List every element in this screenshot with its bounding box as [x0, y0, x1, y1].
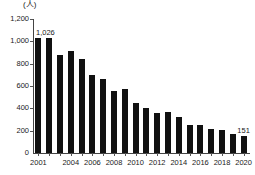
- x-axis-tick-mark: [200, 153, 201, 156]
- bar: [79, 59, 85, 153]
- x-axis-tick-mark: [60, 153, 61, 156]
- y-axis-tick-mark: [30, 131, 33, 132]
- bar: [197, 125, 203, 153]
- y-axis-tick-label: 400: [16, 104, 29, 112]
- y-axis-tick-mark: [30, 86, 33, 87]
- x-axis-tick-mark: [146, 153, 147, 156]
- bar: [143, 108, 149, 153]
- x-axis-tick-label: 2006: [84, 158, 101, 167]
- x-axis-tick-label: 2008: [106, 158, 123, 167]
- bar: [122, 89, 128, 153]
- bar: [111, 91, 117, 153]
- x-axis-tick-label: 2016: [192, 158, 209, 167]
- bar: [176, 117, 182, 153]
- y-axis-tick-mark: [30, 19, 33, 20]
- x-axis-tick-mark: [244, 153, 245, 156]
- x-axis-tick-label: 2010: [127, 158, 144, 167]
- bar: [68, 51, 74, 153]
- x-axis-tick-label: 2018: [214, 158, 231, 167]
- x-axis-tick-mark: [168, 153, 169, 156]
- y-axis-tick-mark: [30, 41, 33, 42]
- y-axis-tick-label: 600: [16, 82, 29, 90]
- x-axis-tick-mark: [103, 153, 104, 156]
- y-axis-tick-labels: 02004006008001,0001,200: [0, 0, 29, 175]
- x-axis-tick-label: 2012: [149, 158, 166, 167]
- bar: [35, 38, 41, 153]
- bar: [208, 129, 214, 153]
- x-axis-tick-mark: [71, 153, 72, 156]
- y-axis-tick-label: 1,200: [10, 15, 29, 23]
- x-axis-ticks: [33, 153, 250, 157]
- x-axis-tick-mark: [125, 153, 126, 156]
- x-axis-tick-labels: 2001200420062008201020122014201620182020: [0, 158, 255, 170]
- x-axis-tick-label: 2014: [170, 158, 187, 167]
- x-axis-tick-label: 2004: [62, 158, 79, 167]
- x-axis-tick-mark: [136, 153, 137, 156]
- x-axis-tick-mark: [38, 153, 39, 156]
- y-axis-tick-label: 0: [25, 149, 29, 157]
- x-axis-tick-mark: [82, 153, 83, 156]
- bar: [89, 75, 95, 153]
- x-axis-tick-mark: [49, 153, 50, 156]
- bar: [230, 134, 236, 153]
- y-axis-tick-mark: [30, 108, 33, 109]
- bar: [187, 125, 193, 153]
- y-axis-tick-label: 200: [16, 127, 29, 135]
- x-axis-tick-mark: [190, 153, 191, 156]
- x-axis-tick-mark: [179, 153, 180, 156]
- x-axis-tick-mark: [211, 153, 212, 156]
- bar: [46, 38, 52, 153]
- x-axis-tick-label: 2001: [30, 158, 47, 167]
- x-axis-tick-mark: [114, 153, 115, 156]
- bar: [57, 55, 63, 153]
- x-axis-tick-mark: [92, 153, 93, 156]
- bar: [133, 103, 139, 153]
- x-axis-tick-mark: [222, 153, 223, 156]
- x-axis-tick-label: 2020: [235, 158, 252, 167]
- bar: [219, 130, 225, 153]
- y-axis-tick-label: 800: [16, 60, 29, 68]
- y-axis-tick-mark: [30, 64, 33, 65]
- bar-value-label: 151: [237, 126, 250, 135]
- bar: [154, 113, 160, 153]
- x-axis-tick-mark: [233, 153, 234, 156]
- bar-series: [33, 19, 249, 153]
- plot-area: [33, 19, 249, 153]
- x-axis-tick-mark: [157, 153, 158, 156]
- bar: [100, 79, 106, 153]
- bar-value-label: 1,026: [36, 28, 55, 37]
- y-axis-tick-label: 1,000: [10, 37, 29, 45]
- bar: [241, 136, 247, 153]
- bar: [165, 112, 171, 153]
- bar-chart: (人) 02004006008001,0001,200 200120042006…: [0, 0, 255, 175]
